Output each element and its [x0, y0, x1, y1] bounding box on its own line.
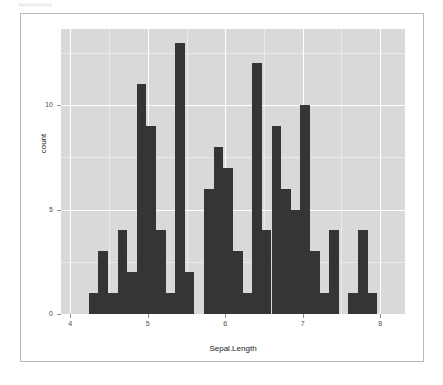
x-tick-label: 6 — [217, 320, 233, 328]
histogram-bar — [214, 147, 224, 314]
x-tick-mark — [303, 314, 304, 318]
chart-panel — [61, 29, 405, 314]
histogram-bar — [89, 293, 99, 314]
x-tick-label: 4 — [62, 320, 78, 328]
x-tick-mark — [148, 314, 149, 318]
histogram-bar — [358, 230, 368, 314]
x-tick-mark — [380, 314, 381, 318]
histogram-bar — [300, 105, 310, 314]
gridline-minor-y — [61, 157, 405, 158]
y-tick-mark — [57, 105, 61, 106]
histogram-bar — [146, 126, 156, 314]
gridline-minor-y — [61, 53, 405, 54]
histogram-bar — [118, 230, 128, 314]
y-tick-mark — [57, 210, 61, 211]
histogram-bar — [98, 251, 108, 314]
histogram-bar — [272, 126, 282, 314]
plot-frame: 0510 45678 Sepal.Length count — [20, 13, 424, 362]
x-axis-title: Sepal.Length — [61, 344, 405, 353]
plot-area: 0510 45678 Sepal.Length count — [21, 14, 423, 361]
gridline-major-x — [70, 29, 71, 314]
histogram-bar — [185, 272, 195, 314]
histogram-bar — [329, 230, 339, 314]
histogram-bar — [320, 293, 330, 314]
histogram-bar — [252, 63, 262, 314]
histogram-bar — [175, 43, 185, 314]
gridline-major-y — [61, 210, 405, 211]
gridline-major-y — [61, 105, 405, 106]
clipped-toolbar-artifact — [18, 2, 52, 7]
histogram-bar — [310, 251, 320, 314]
x-tick-label: 5 — [140, 320, 156, 328]
histogram-bar — [348, 293, 358, 314]
histogram-bar — [108, 293, 118, 314]
x-tick-mark — [225, 314, 226, 318]
histogram-bar — [137, 84, 147, 314]
histogram-bar — [204, 189, 214, 314]
histogram-screenshot: 0510 45678 Sepal.Length count — [0, 0, 443, 385]
x-tick-label: 8 — [372, 320, 388, 328]
y-tick-label: 0 — [33, 310, 53, 318]
x-tick-label: 7 — [295, 320, 311, 328]
y-tick-label: 5 — [33, 206, 53, 214]
histogram-bar — [243, 293, 253, 314]
histogram-bar — [291, 210, 301, 314]
x-tick-mark — [70, 314, 71, 318]
y-axis-title: count — [39, 114, 48, 174]
histogram-bar — [156, 230, 166, 314]
gridline-minor-x — [109, 29, 110, 314]
y-tick-label: 10 — [33, 101, 53, 109]
histogram-bar — [127, 272, 137, 314]
histogram-bar — [368, 293, 378, 314]
histogram-bar — [262, 230, 272, 314]
histogram-bar — [223, 168, 233, 314]
gridline-major-x — [380, 29, 381, 314]
histogram-bar — [281, 189, 291, 314]
histogram-bar — [166, 293, 176, 314]
histogram-bar — [233, 251, 243, 314]
y-tick-mark — [57, 314, 61, 315]
gridline-minor-x — [187, 29, 188, 314]
gridline-minor-x — [341, 29, 342, 314]
